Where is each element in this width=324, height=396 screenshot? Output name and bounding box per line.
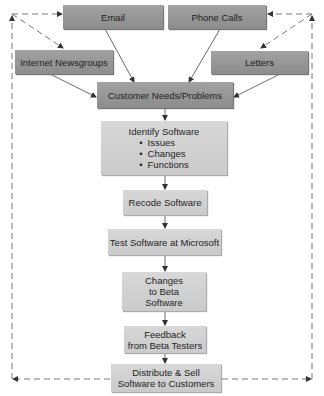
internet-newsgroups-box: Internet Newsgroups (15, 50, 113, 74)
distribute-line2: Software to Customers (118, 378, 215, 389)
recode-software-label: Recode Software (129, 197, 202, 208)
identify-item-changes: Changes (139, 148, 189, 159)
distribute-box: Distribute & Sell Software to Customers (111, 364, 221, 392)
identify-software-list: Issues Changes Functions (139, 137, 189, 170)
customer-needs-box: Customer Needs/Problems (97, 82, 233, 108)
letters-label: Letters (245, 57, 274, 68)
phone-calls-box: Phone Calls (168, 5, 266, 29)
changes-beta-line1: Changes (145, 275, 183, 286)
test-software-box: Test Software at Microsoft (108, 229, 221, 255)
customer-needs-label: Customer Needs/Problems (108, 90, 222, 101)
email-label: Email (101, 12, 125, 23)
phone-calls-label: Phone Calls (191, 12, 242, 23)
identify-item-functions: Functions (139, 159, 189, 170)
feedback-box: Feedback from Beta Testers (124, 326, 206, 353)
internet-newsgroups-label: Internet Newsgroups (20, 57, 108, 68)
changes-beta-box: Changes to Beta Software (122, 272, 206, 311)
identify-item-issues: Issues (139, 137, 189, 148)
recode-software-box: Recode Software (123, 190, 207, 215)
changes-beta-line3: Software (145, 297, 183, 308)
feedback-line1: Feedback (144, 329, 186, 340)
identify-software-box: Identify Software Issues Changes Functio… (101, 121, 227, 175)
test-software-label: Test Software at Microsoft (110, 237, 219, 248)
email-box: Email (63, 5, 163, 29)
identify-software-title: Identify Software (129, 126, 200, 137)
changes-beta-line2: to Beta (149, 286, 179, 297)
feedback-line2: from Beta Testers (128, 340, 202, 351)
distribute-line1: Distribute & Sell (132, 367, 200, 378)
letters-box: Letters (211, 51, 308, 74)
